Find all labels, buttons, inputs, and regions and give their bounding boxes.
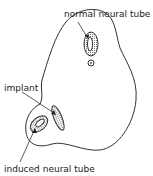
- implant: [49, 104, 66, 131]
- notochord: [88, 60, 94, 66]
- label-normal-neural-tube: normal neural tube: [64, 9, 150, 19]
- label-induced-neural-tube: induced neural tube: [4, 164, 95, 174]
- leader-normal: [78, 22, 87, 37]
- label-implant: implant: [4, 83, 38, 93]
- induced-neural-tube: [27, 113, 51, 136]
- leader-implant: [22, 92, 54, 113]
